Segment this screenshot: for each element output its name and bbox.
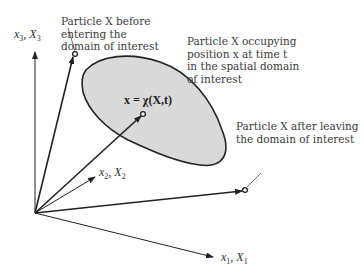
x3-axis-label: x3, X3 xyxy=(14,27,41,43)
particle-inside xyxy=(141,112,146,117)
label-before: Particle X before entering the domain of… xyxy=(61,15,159,53)
particle-after xyxy=(243,188,248,193)
x1-axis xyxy=(35,213,213,257)
leader-after xyxy=(247,173,261,187)
x2-axis-label: x2, X2 xyxy=(99,165,126,181)
motion-equation: x = χ(X,t) xyxy=(124,93,172,108)
vector-before xyxy=(35,57,73,213)
label-occupying: Particle X occupying position x at time … xyxy=(187,35,299,85)
label-after: Particle X after leaving the domain of i… xyxy=(236,120,359,145)
x1-axis-label: x1, X1 xyxy=(221,250,248,266)
